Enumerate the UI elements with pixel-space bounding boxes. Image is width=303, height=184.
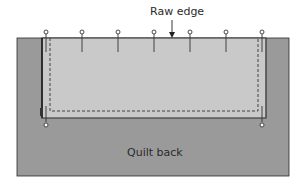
corner-tuck bbox=[40, 108, 43, 116]
raw-edge-arrow-icon bbox=[169, 20, 175, 38]
raw-edge-label: Raw edge bbox=[150, 5, 204, 18]
quilt-back-label: Quilt back bbox=[127, 146, 183, 159]
